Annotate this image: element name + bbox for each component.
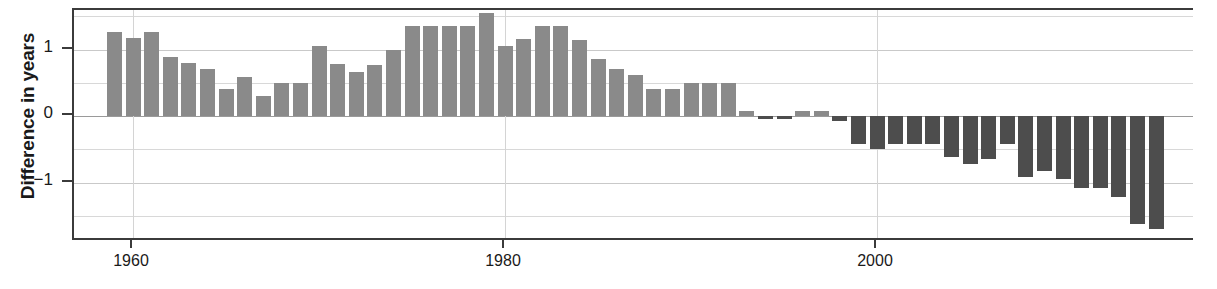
bar bbox=[572, 40, 587, 116]
bar bbox=[163, 57, 178, 116]
bar-chart: Difference in years 10−1 196019802000 bbox=[0, 0, 1217, 289]
gridline bbox=[74, 16, 1193, 17]
bar bbox=[200, 69, 215, 116]
bar bbox=[795, 111, 810, 116]
gridline bbox=[74, 183, 1193, 184]
x-tick-label: 1960 bbox=[101, 252, 161, 270]
plot-inner bbox=[74, 10, 1193, 238]
bar bbox=[925, 116, 940, 144]
bar bbox=[274, 83, 289, 116]
bar bbox=[1093, 116, 1108, 188]
bar bbox=[609, 69, 624, 116]
bar bbox=[1074, 116, 1089, 188]
bar bbox=[498, 46, 513, 116]
x-tick-mark bbox=[130, 240, 132, 248]
bar bbox=[367, 65, 382, 116]
bar bbox=[423, 26, 438, 116]
bar bbox=[349, 72, 364, 116]
bar bbox=[1000, 116, 1015, 144]
x-tick-mark bbox=[874, 240, 876, 248]
y-tick-label: 0 bbox=[13, 103, 53, 123]
bar bbox=[888, 116, 903, 144]
bar bbox=[1018, 116, 1033, 177]
bar bbox=[479, 13, 494, 116]
bar bbox=[702, 83, 717, 116]
gridline bbox=[74, 216, 1193, 217]
bar bbox=[516, 39, 531, 116]
bar bbox=[442, 26, 457, 116]
x-tick-label: 2000 bbox=[845, 252, 905, 270]
bar bbox=[870, 116, 885, 149]
bar bbox=[684, 83, 699, 116]
bar bbox=[535, 26, 550, 116]
bar bbox=[758, 116, 773, 119]
bar bbox=[1130, 116, 1145, 224]
bar bbox=[237, 77, 252, 116]
bar bbox=[386, 50, 401, 117]
bar bbox=[907, 116, 922, 144]
bar bbox=[721, 83, 736, 116]
bar bbox=[219, 89, 234, 116]
bar bbox=[646, 89, 661, 116]
bar bbox=[1056, 116, 1071, 179]
bar bbox=[851, 116, 866, 144]
bar bbox=[405, 26, 420, 116]
bar bbox=[256, 96, 271, 116]
bar bbox=[312, 46, 327, 116]
plot-area bbox=[72, 8, 1193, 240]
gridline bbox=[74, 50, 1193, 51]
y-tick-label: −1 bbox=[13, 170, 53, 190]
bar bbox=[460, 26, 475, 116]
bar bbox=[591, 59, 606, 116]
bar bbox=[330, 64, 345, 116]
bar bbox=[293, 83, 308, 116]
bar bbox=[814, 111, 829, 116]
bar bbox=[553, 26, 568, 116]
bar bbox=[628, 75, 643, 116]
bar bbox=[1149, 116, 1164, 229]
bar bbox=[944, 116, 959, 157]
bar bbox=[181, 63, 196, 116]
bar bbox=[1037, 116, 1052, 171]
x-tick-label: 1980 bbox=[473, 252, 533, 270]
bar bbox=[1111, 116, 1126, 197]
bar bbox=[144, 32, 159, 116]
bar bbox=[739, 111, 754, 116]
bar bbox=[832, 116, 847, 121]
x-tick-mark bbox=[502, 240, 504, 248]
bar bbox=[963, 116, 978, 164]
bar bbox=[107, 32, 122, 116]
bar bbox=[126, 38, 141, 116]
vertical-gridline bbox=[505, 10, 506, 238]
bar bbox=[981, 116, 996, 159]
bar bbox=[665, 89, 680, 116]
bar bbox=[777, 116, 792, 119]
y-tick-label: 1 bbox=[13, 37, 53, 57]
